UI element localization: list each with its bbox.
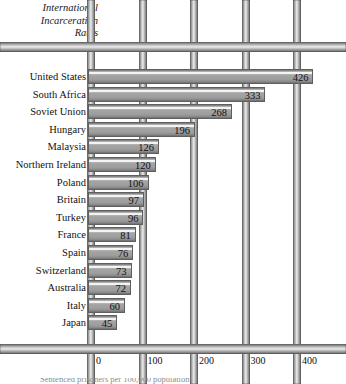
bar-row: Malaysia126 — [0, 138, 346, 155]
value-bar: 60 — [88, 298, 125, 313]
value-label: 73 — [116, 265, 127, 278]
value-bar: 81 — [88, 227, 136, 242]
value-label: 106 — [128, 177, 144, 190]
bar-row: Turkey96 — [0, 209, 346, 226]
value-label: 72 — [116, 282, 127, 295]
tick-label-100: 100 — [148, 355, 163, 366]
bar-row: Poland106 — [0, 174, 346, 191]
tick-label-400: 400 — [302, 355, 317, 366]
bar-row: Hungary196 — [0, 121, 346, 138]
bar-row: Soviet Union268 — [0, 103, 346, 120]
bar-wrapper: 106 — [88, 175, 149, 190]
bar-row: Japan45 — [0, 314, 346, 331]
value-bar: 106 — [88, 175, 149, 190]
value-label: 81 — [120, 229, 131, 242]
bar-row: Britain97 — [0, 191, 346, 208]
value-label: 96 — [128, 212, 139, 225]
bar-row: South Africa333 — [0, 86, 346, 103]
value-bar: 268 — [88, 104, 232, 119]
caption-clip: Sentenced prisoners per 100,000 populati… — [0, 378, 346, 384]
category-label: United States — [0, 70, 86, 83]
category-label: Hungary — [0, 123, 86, 136]
category-label: France — [0, 228, 86, 241]
bar-wrapper: 196 — [88, 122, 195, 137]
category-label: Britain — [0, 193, 86, 206]
value-label: 196 — [174, 124, 190, 137]
category-label: Australia — [0, 281, 86, 294]
bar-row: Spain76 — [0, 244, 346, 261]
value-bar: 333 — [88, 87, 265, 102]
value-bar: 196 — [88, 122, 195, 137]
value-bar: 73 — [88, 263, 132, 278]
bar-wrapper: 120 — [88, 157, 156, 172]
tick-label-0: 0 — [96, 355, 101, 366]
bar-wrapper: 72 — [88, 280, 131, 295]
value-label: 126 — [138, 141, 154, 154]
category-label: Turkey — [0, 211, 86, 224]
value-bar: 120 — [88, 157, 156, 172]
bar-wrapper: 73 — [88, 263, 132, 278]
chart-caption: Sentenced prisoners per 100,000 populati… — [40, 378, 189, 384]
category-label: Japan — [0, 316, 86, 329]
bar-wrapper: 333 — [88, 87, 265, 102]
bar-wrapper: 96 — [88, 210, 143, 225]
category-label: Spain — [0, 246, 86, 259]
value-label: 60 — [109, 300, 120, 313]
bar-wrapper: 268 — [88, 104, 232, 119]
value-bar: 96 — [88, 210, 143, 225]
category-label: Poland — [0, 176, 86, 189]
value-bar: 426 — [88, 69, 313, 84]
value-label: 426 — [293, 71, 309, 84]
value-label: 268 — [211, 106, 227, 119]
bar-wrapper: 45 — [88, 315, 117, 330]
value-bar: 72 — [88, 280, 131, 295]
category-label: Italy — [0, 299, 86, 312]
category-label: Malaysia — [0, 140, 86, 153]
bar-wrapper: 81 — [88, 227, 136, 242]
category-label: Switzerland — [0, 264, 86, 277]
bar-row: France81 — [0, 226, 346, 243]
bar-row: Italy60 — [0, 297, 346, 314]
value-label: 120 — [135, 159, 151, 172]
tick-label-300: 300 — [251, 355, 266, 366]
value-label: 76 — [118, 247, 129, 260]
bar-wrapper: 426 — [88, 69, 313, 84]
bar-row: Australia72 — [0, 279, 346, 296]
value-bar: 126 — [88, 139, 159, 154]
category-label: Northern Ireland — [0, 158, 86, 171]
bar-wrapper: 126 — [88, 139, 159, 154]
value-label: 45 — [102, 317, 113, 330]
bar-rows: United States426South Africa333Soviet Un… — [0, 0, 346, 384]
incarceration-bar-chart: International Incarceration Rates United… — [0, 0, 346, 384]
bar-row: Northern Ireland120 — [0, 156, 346, 173]
tick-label-200: 200 — [199, 355, 214, 366]
bar-wrapper: 60 — [88, 298, 125, 313]
bar-wrapper: 97 — [88, 192, 144, 207]
bar-row: Switzerland73 — [0, 262, 346, 279]
value-label: 333 — [245, 89, 261, 102]
category-label: South Africa — [0, 88, 86, 101]
value-bar: 97 — [88, 192, 144, 207]
value-bar: 45 — [88, 315, 117, 330]
category-label: Soviet Union — [0, 105, 86, 118]
bar-wrapper: 76 — [88, 245, 133, 260]
bar-row: United States426 — [0, 68, 346, 85]
value-label: 97 — [128, 194, 139, 207]
value-bar: 76 — [88, 245, 133, 260]
